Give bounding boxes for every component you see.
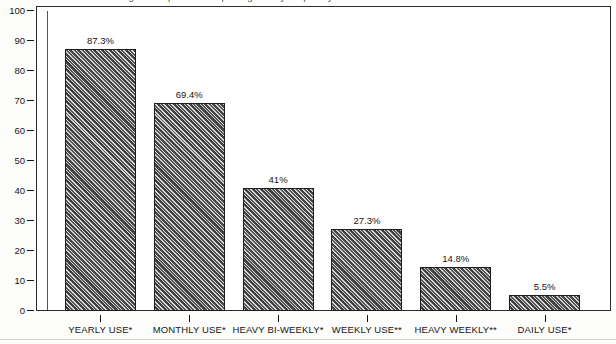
y-axis-tick-mark [27, 160, 34, 161]
bar[interactable]: 87.3% [65, 49, 136, 311]
y-axis-tick-mark [27, 40, 34, 41]
y-axis-tick-label: 100 [9, 5, 25, 17]
bar-value-label: 27.3% [353, 215, 380, 226]
bar-chart: 0102030405060708090100 87.3%69.4%41%27.3… [0, 0, 616, 344]
y-axis-tick-label: 30 [14, 215, 25, 227]
y-axis-tick-mark [27, 220, 34, 221]
bar[interactable]: 41% [243, 188, 314, 311]
x-axis-tick-mark [367, 315, 368, 322]
x-axis-category-label: DAILY USE* [518, 324, 572, 336]
bar-group: 41% [243, 6, 314, 311]
y-axis-tick: 0 [0, 305, 34, 317]
y-axis-tick-label: 10 [14, 275, 25, 287]
x-axis-category-label: YEARLY USE* [68, 324, 132, 336]
bar-value-label: 41% [269, 174, 288, 185]
y-axis-tick-label: 50 [14, 155, 25, 167]
y-axis-tick-label: 60 [14, 125, 25, 137]
y-axis-tick-label: 20 [14, 245, 25, 257]
y-axis-tick: 90 [0, 35, 34, 47]
x-axis-tick-mark [456, 315, 457, 322]
page-bottom-rule [0, 339, 616, 340]
y-axis-tick-mark [27, 250, 34, 251]
y-axis-tick-mark [27, 100, 34, 101]
y-axis-tick: 40 [0, 185, 34, 197]
y-axis-tick-label: 80 [14, 65, 25, 77]
bar-value-label: 14.8% [442, 253, 469, 264]
y-axis-tick: 20 [0, 245, 34, 257]
y-axis-tick-mark [27, 70, 34, 71]
y-axis-tick: 10 [0, 275, 34, 287]
bar[interactable]: 69.4% [154, 103, 225, 311]
x-axis-category-label: MONTHLY USE* [153, 324, 226, 336]
bar-group: 5.5% [509, 6, 580, 311]
y-axis-tick: 70 [0, 95, 34, 107]
x-axis-category-label: HEAVY BI-WEEKLY* [233, 324, 324, 336]
bar-value-label: 87.3% [87, 35, 114, 46]
x-axis-category-label: HEAVY WEEKLY** [415, 324, 497, 336]
x-axis-tick-mark [100, 315, 101, 322]
bar-value-label: 69.4% [176, 89, 203, 100]
x-axis-tick-mark [545, 315, 546, 322]
y-axis-tick: 30 [0, 215, 34, 227]
y-axis-tick: 60 [0, 125, 34, 137]
bar-series: 87.3%69.4%41%27.3%14.8%5.5% [36, 6, 611, 311]
bar-group: 27.3% [331, 6, 402, 311]
y-axis-tick-label: 40 [14, 185, 25, 197]
y-axis-tick: 80 [0, 65, 34, 77]
x-axis-tick-mark [189, 315, 190, 322]
y-axis-tick-mark [27, 130, 34, 131]
y-axis-tick-mark [27, 310, 34, 311]
bar-group: 87.3% [65, 6, 136, 311]
bar-group: 14.8% [420, 6, 491, 311]
y-axis-tick: 50 [0, 155, 34, 167]
y-axis-tick: 100 [0, 5, 34, 17]
bar[interactable]: 5.5% [509, 295, 580, 312]
bar[interactable]: 14.8% [420, 267, 491, 311]
x-axis-tick-mark [278, 315, 279, 322]
y-axis-tick-mark [27, 10, 34, 11]
bar[interactable]: 27.3% [331, 229, 402, 311]
y-axis-tick-mark [27, 190, 34, 191]
bar-group: 69.4% [154, 6, 225, 311]
y-axis-tick-label: 70 [14, 95, 25, 107]
x-axis-category-label: WEEKLY USE** [332, 324, 402, 336]
y-axis-tick-label: 0 [20, 305, 25, 317]
y-axis-tick-label: 90 [14, 35, 25, 47]
bar-value-label: 5.5% [534, 281, 556, 292]
y-axis-tick-mark [27, 280, 34, 281]
